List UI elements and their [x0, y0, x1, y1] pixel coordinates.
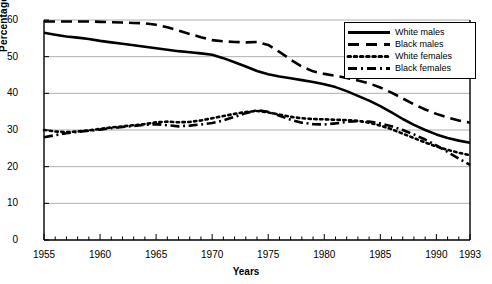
y-tick-label: 20: [0, 162, 18, 172]
y-tick-label: 50: [0, 52, 18, 62]
x-tick-label: 1993: [450, 250, 490, 260]
legend-item-white-males: White males: [348, 27, 471, 38]
legend-label: Black males: [395, 40, 444, 49]
series-line-white-females: [44, 111, 470, 155]
legend-key-dashdot-icon: [348, 64, 390, 73]
y-axis-title: Percentage: [0, 0, 9, 84]
y-tick-label: 40: [0, 88, 18, 98]
x-tick-label: 1965: [136, 250, 176, 260]
x-tick-label: 1960: [80, 250, 120, 260]
chart-legend: White males Black males White females Bl…: [344, 22, 476, 79]
x-tick-label: 1970: [192, 250, 232, 260]
legend-item-black-males: Black males: [348, 39, 471, 50]
y-tick-label: 0: [0, 235, 18, 245]
x-tick-label: 1975: [248, 250, 288, 260]
legend-key-dotted-icon: [348, 52, 390, 61]
y-tick-label: 60: [0, 15, 18, 25]
x-tick-label: 1985: [360, 250, 400, 260]
legend-label: White females: [395, 52, 452, 61]
legend-key-solid-icon: [348, 28, 390, 37]
x-axis-title: Years: [0, 266, 492, 277]
legend-item-black-females: Black females: [348, 63, 471, 74]
x-tick-label: 1980: [304, 250, 344, 260]
chart-container: Percentage Years 0102030405060 195519601…: [0, 0, 492, 284]
legend-key-dashed-icon: [348, 40, 390, 49]
y-tick-label: 10: [0, 198, 18, 208]
y-tick-label: 30: [0, 125, 18, 135]
legend-label: Black females: [395, 64, 451, 73]
legend-label: White males: [395, 28, 445, 37]
x-tick-label: 1955: [24, 250, 64, 260]
legend-item-white-females: White females: [348, 51, 471, 62]
series-line-black-females: [44, 110, 470, 165]
